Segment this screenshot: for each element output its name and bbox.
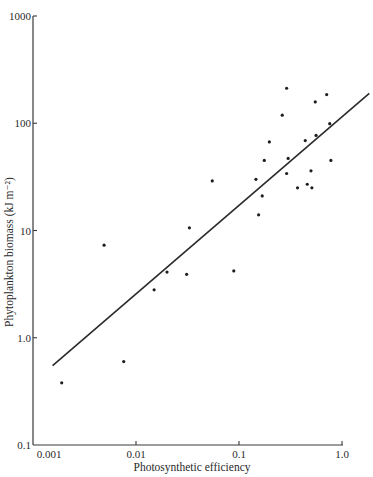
data-point xyxy=(261,194,264,197)
data-point xyxy=(263,159,266,162)
data-point xyxy=(309,169,312,172)
x-tick-label: 0.01 xyxy=(126,448,145,460)
y-tick-label: 10 xyxy=(20,225,32,237)
data-point xyxy=(60,381,63,384)
data-point xyxy=(306,183,309,186)
axes xyxy=(33,16,343,445)
data-point xyxy=(314,100,317,103)
y-tick-label: 0.1 xyxy=(17,439,31,451)
data-point xyxy=(310,186,313,189)
data-point xyxy=(232,269,235,272)
scatter-chart: 0.11.0101001000 0.0010.010.11.0 Photosyn… xyxy=(0,0,373,477)
data-point xyxy=(153,288,156,291)
data-point xyxy=(254,178,257,181)
data-point xyxy=(122,360,125,363)
data-point xyxy=(329,159,332,162)
x-axis-title: Photosynthetic efficiency xyxy=(134,461,251,474)
data-point xyxy=(281,114,284,117)
data-point xyxy=(185,273,188,276)
data-point xyxy=(257,213,260,216)
data-point xyxy=(304,139,307,142)
regression-line xyxy=(53,93,370,365)
data-point xyxy=(328,122,331,125)
data-point xyxy=(188,226,191,229)
x-tick-label: 1.0 xyxy=(335,448,349,460)
regression-line-path xyxy=(53,93,370,365)
data-point xyxy=(268,140,271,143)
data-point xyxy=(285,172,288,175)
x-ticks: 0.0010.010.11.0 xyxy=(37,441,350,460)
data-point xyxy=(325,93,328,96)
y-tick-label: 100 xyxy=(15,117,32,129)
data-point xyxy=(165,270,168,273)
data-point xyxy=(211,179,214,182)
x-tick-label: 0.001 xyxy=(37,448,62,460)
y-tick-label: 1.0 xyxy=(17,332,31,344)
data-point xyxy=(102,244,105,247)
x-tick-label: 0.1 xyxy=(232,448,246,460)
data-point xyxy=(314,134,317,137)
y-tick-label: 1000 xyxy=(9,10,32,22)
data-point xyxy=(285,87,288,90)
data-points xyxy=(60,87,332,385)
data-point xyxy=(287,157,290,160)
data-point xyxy=(296,186,299,189)
y-axis-title: Phytoplankton biomass (kJ m⁻²) xyxy=(3,177,16,327)
